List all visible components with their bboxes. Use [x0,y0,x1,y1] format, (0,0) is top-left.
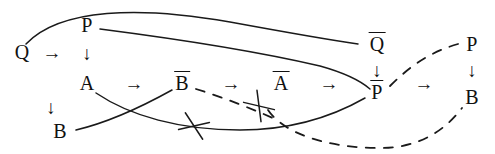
arrow-a-to-b: ↓ [46,98,56,117]
arrow-qbar-to-pbar: ↓ [372,61,382,80]
arrow-a-to-bbar: → [125,74,144,93]
node-b: B [53,121,67,141]
arrow-bbar-to-abar: → [222,74,241,93]
node-label: B [53,120,67,142]
connector-a-to-lower-curve [96,93,365,130]
arrow-pbar-to-p2: → [415,74,434,93]
node-bbar: B [175,73,189,93]
node-qbar: Q [370,34,385,54]
connector-b-to-bbar-curve [76,90,172,130]
node-p2: P [466,34,477,54]
node-label: B [175,73,189,93]
node-a: A [80,73,95,93]
arrow-p-to-a: ↓ [82,44,92,63]
implication-diagram: QPABBAQPPB →↓→↓→→↓→↓ [0,0,495,154]
node-label: P [371,82,382,102]
arrow-p2-to-b2: ↓ [467,61,477,80]
connector-abar-to-b2-dashed [268,108,462,148]
node-label: Q [15,41,30,63]
node-b2: B [465,87,479,107]
cross-marks-group [179,90,275,139]
node-q: Q [15,42,30,62]
node-p: P [81,15,92,35]
node-label: P [81,14,92,36]
node-pbar: P [371,82,382,102]
connector-bbar-to-pbar-dashed [196,89,275,119]
node-label: B [465,86,479,108]
arrow-q-to-p-col: → [43,43,62,62]
node-label: Q [370,34,385,54]
node-abar: A [274,73,289,93]
node-label: A [80,72,95,94]
arrow-abar-to-pbar: → [320,74,339,93]
node-label: P [466,33,477,55]
node-label: A [274,73,289,93]
connector-q-to-qbar-curve [26,12,358,44]
